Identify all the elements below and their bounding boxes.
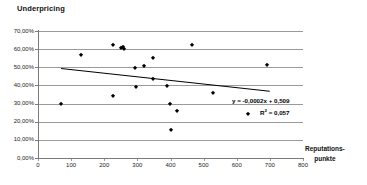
y-tick-label: 60,00% <box>0 46 34 52</box>
data-point <box>134 85 139 90</box>
data-point <box>142 64 147 69</box>
x-tick-label: 400 <box>159 162 183 168</box>
data-point <box>122 47 127 52</box>
trendline <box>61 68 270 92</box>
data-point <box>168 128 173 133</box>
y-tick-label: 0,00% <box>0 155 34 161</box>
x-tick-label: 100 <box>59 162 83 168</box>
x-tick-label: 500 <box>192 162 216 168</box>
plot-area <box>38 31 303 158</box>
data-point <box>175 109 180 114</box>
data-point <box>190 42 195 47</box>
data-point <box>168 102 173 107</box>
x-axis-title-line2: punkte <box>305 154 345 164</box>
data-point <box>110 42 115 47</box>
data-point <box>210 90 215 95</box>
x-axis-line <box>38 158 304 159</box>
x-axis-title: Reputations- punkte <box>305 144 345 163</box>
x-tick-label: 600 <box>225 162 249 168</box>
x-tick-label: 200 <box>92 162 116 168</box>
x-tick-label: 0 <box>26 162 50 168</box>
y-tick-label: 40,00% <box>0 82 34 88</box>
data-point <box>110 94 115 99</box>
y-tick-label: 10,00% <box>0 136 34 142</box>
y-tick-label: 70,00% <box>0 28 34 34</box>
x-tick-label: 700 <box>258 162 282 168</box>
x-tick-label: 300 <box>125 162 149 168</box>
y-tick-label: 30,00% <box>0 100 34 106</box>
trendline-annotation: y = -0,0002x + 0,509 R2 = 0,057 <box>232 96 289 117</box>
r-squared-label: R2 = 0,057 <box>232 106 289 118</box>
data-point <box>59 102 64 107</box>
trendline-equation: y = -0,0002x + 0,509 <box>232 96 289 106</box>
data-point <box>151 56 156 61</box>
data-point <box>133 66 138 71</box>
chart-title: Underpricing <box>17 4 65 13</box>
data-point <box>79 53 84 58</box>
data-point <box>165 84 170 89</box>
y-tick-label: 20,00% <box>0 118 34 124</box>
y-tick-label: 50,00% <box>0 64 34 70</box>
data-point <box>264 63 269 68</box>
x-axis-title-line1: Reputations- <box>305 145 345 152</box>
scatter-chart: Underpricing 0,00%10,00%20,00%30,00%40,0… <box>0 0 367 185</box>
